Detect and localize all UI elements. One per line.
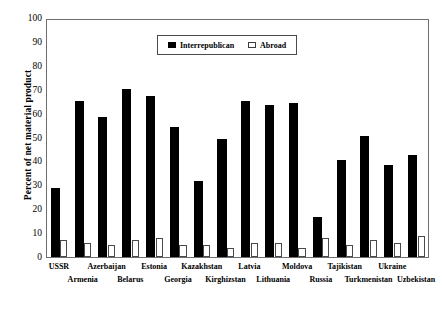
bar-interrepublican [408, 155, 417, 257]
plot-area: InterrepublicanAbroad [46, 19, 429, 258]
bar-abroad [84, 243, 91, 257]
bar-interrepublican [384, 165, 393, 257]
x-tick-label: Kirghizstan [205, 275, 245, 284]
bar-interrepublican [217, 139, 226, 258]
bar-abroad [132, 240, 139, 257]
bar-abroad [108, 245, 115, 257]
x-tick-label: Moldova [282, 262, 312, 271]
y-tick-label: 40 [12, 157, 42, 167]
x-tick-label: Armenia [68, 275, 98, 284]
bar-abroad [60, 240, 67, 257]
bar-group [285, 20, 309, 257]
bar-abroad [370, 240, 377, 257]
bar-interrepublican [313, 217, 322, 257]
bar-abroad [227, 248, 234, 257]
x-axis-labels: USSRArmeniaAzerbaijanBelarusEstoniaGeorg… [47, 260, 428, 306]
bar-group [404, 20, 428, 257]
bar-interrepublican [241, 101, 250, 257]
x-tick-label: USSR [49, 262, 69, 271]
bars-layer [47, 20, 428, 257]
bar-abroad [251, 243, 258, 257]
x-tick-label: Uzbekistan [397, 275, 435, 284]
bar-group [238, 20, 262, 257]
bar-group [309, 20, 333, 257]
bar-chart-figure: Percent of net material product 01020304… [0, 0, 442, 315]
y-tick-label: 0 [12, 253, 42, 263]
x-tick-label: Latvia [238, 262, 260, 271]
legend-label: Abroad [260, 41, 286, 50]
bar-interrepublican [75, 101, 84, 257]
bar-group [71, 20, 95, 257]
bar-interrepublican [51, 188, 60, 257]
bar-abroad [275, 243, 282, 257]
x-tick-label: Ukraine [378, 262, 406, 271]
y-tick-label: 100 [12, 14, 42, 24]
bar-abroad [394, 243, 401, 257]
bar-group [214, 20, 238, 257]
x-tick-label: Georgia [164, 275, 192, 284]
chart-legend: InterrepublicanAbroad [157, 35, 297, 55]
bar-abroad [418, 236, 425, 257]
bar-group [95, 20, 119, 257]
bar-abroad [298, 248, 305, 257]
bar-interrepublican [122, 89, 131, 257]
bar-abroad [203, 245, 210, 257]
bar-group [166, 20, 190, 257]
bar-abroad [156, 238, 163, 257]
legend-entry: Interrepublican [168, 41, 234, 50]
x-tick-label: Tajikistan [327, 262, 361, 271]
bar-interrepublican [146, 96, 155, 257]
bar-abroad [322, 238, 329, 257]
x-tick-label: Estonia [141, 262, 167, 271]
y-tick-label: 30 [12, 181, 42, 191]
x-tick-label: Belarus [117, 275, 143, 284]
x-tick-label: Russia [310, 275, 333, 284]
bar-group [380, 20, 404, 257]
y-tick-label: 90 [12, 38, 42, 48]
bar-group [118, 20, 142, 257]
y-tick-label: 70 [12, 86, 42, 96]
y-tick-label: 50 [12, 134, 42, 144]
legend-label: Interrepublican [180, 41, 234, 50]
bar-interrepublican [360, 136, 369, 257]
bar-group [47, 20, 71, 257]
bar-abroad [346, 245, 353, 257]
x-tick-label: Turkmenistan [344, 275, 392, 284]
bar-interrepublican [194, 181, 203, 257]
bar-group [261, 20, 285, 257]
bar-interrepublican [265, 105, 274, 257]
bar-interrepublican [289, 103, 298, 257]
y-tick-label: 10 [12, 229, 42, 239]
x-tick-label: Kazakhstan [181, 262, 222, 271]
bar-abroad [179, 245, 186, 257]
bar-group [333, 20, 357, 257]
y-tick-label: 20 [12, 205, 42, 215]
filled-square-icon [168, 42, 176, 48]
x-tick-label: Azerbaijan [87, 262, 125, 271]
legend-entry: Abroad [248, 41, 286, 50]
y-tick-label: 80 [12, 62, 42, 72]
x-tick-label: Lithuania [256, 275, 290, 284]
bar-group [142, 20, 166, 257]
bar-interrepublican [337, 160, 346, 257]
bar-interrepublican [170, 127, 179, 257]
open-square-icon [248, 42, 256, 48]
bar-group [357, 20, 381, 257]
y-tick-label: 60 [12, 110, 42, 120]
bar-group [190, 20, 214, 257]
bar-interrepublican [98, 117, 107, 257]
